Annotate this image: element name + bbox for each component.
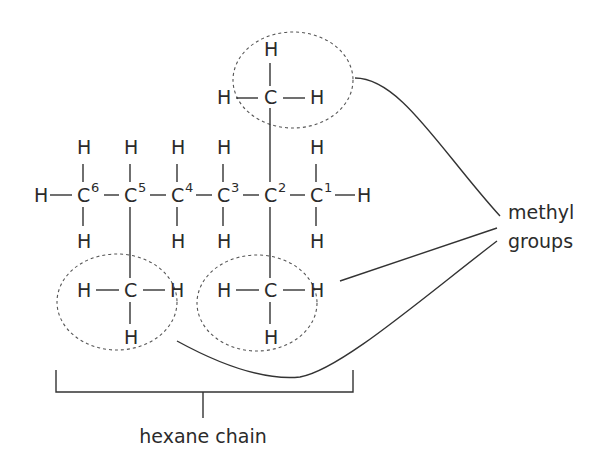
svg-text:H: H — [310, 86, 324, 108]
svg-text:3: 3 — [231, 180, 239, 195]
svg-text:H: H — [217, 279, 231, 301]
svg-text:4: 4 — [185, 180, 193, 195]
svg-text:C: C — [124, 184, 137, 206]
methyl-groups-label-line1: methyl — [508, 201, 574, 223]
svg-text:6: 6 — [91, 180, 99, 195]
svg-text:H: H — [77, 279, 91, 301]
carbon-1: C 1 — [310, 180, 332, 206]
hydrogen-atom: H — [310, 136, 324, 158]
carbon-6: C 6 — [77, 180, 99, 206]
hexane-chain-label: hexane chain — [139, 425, 267, 447]
methyl-group-left-ellipse — [57, 254, 177, 350]
hexane-chain-bracket — [56, 370, 353, 418]
svg-text:C: C — [310, 184, 323, 206]
hydrogen-atom: H — [171, 136, 185, 158]
hydrogen-atom: H — [217, 230, 231, 252]
svg-text:H: H — [264, 38, 278, 60]
svg-text:C: C — [124, 279, 137, 301]
methyl-group-right: H C H H — [217, 279, 324, 348]
methyl-group-left: H C H H — [77, 279, 184, 348]
carbon-5: C 5 — [124, 180, 146, 206]
svg-text:2: 2 — [278, 180, 286, 195]
carbon-4: C 4 — [171, 180, 193, 206]
methyl-groups-label-line2: groups — [508, 230, 573, 252]
svg-text:C: C — [217, 184, 230, 206]
carbon-2: C 2 — [264, 180, 286, 206]
svg-text:H: H — [217, 86, 231, 108]
methyl-leader-lines — [177, 78, 500, 378]
svg-text:H: H — [170, 279, 184, 301]
svg-text:C: C — [77, 184, 90, 206]
methyl-group-top-ellipse — [233, 32, 353, 128]
svg-text:H: H — [264, 326, 278, 348]
hydrogen-atom: H — [171, 230, 185, 252]
hydrogen-atom: H — [217, 136, 231, 158]
svg-text:C: C — [264, 279, 277, 301]
svg-text:H: H — [310, 279, 324, 301]
svg-text:5: 5 — [138, 180, 146, 195]
hydrogen-atom: H — [34, 184, 48, 206]
svg-text:1: 1 — [324, 180, 332, 195]
hydrogen-atom: H — [77, 230, 91, 252]
methyl-group-right-ellipse — [197, 255, 317, 351]
structural-formula-diagram: H H H H H H C 6 C 5 C 4 C 3 C 2 C 1 H H … — [0, 0, 605, 462]
svg-text:C: C — [264, 184, 277, 206]
hydrogen-atom: H — [310, 230, 324, 252]
hydrogen-atom: H — [357, 184, 371, 206]
svg-text:C: C — [171, 184, 184, 206]
svg-text:C: C — [264, 86, 277, 108]
hydrogen-atom: H — [124, 136, 138, 158]
carbon-3: C 3 — [217, 180, 239, 206]
hydrogen-atom: H — [77, 136, 91, 158]
svg-text:H: H — [124, 326, 138, 348]
